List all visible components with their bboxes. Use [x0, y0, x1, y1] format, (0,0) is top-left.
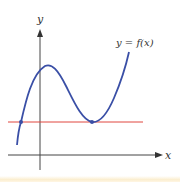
tangent-point — [90, 120, 94, 124]
intersection-point — [19, 120, 23, 124]
bottom-highlight-band — [0, 176, 180, 182]
y-axis-arrow-icon — [37, 29, 43, 37]
y-axis-label: y — [36, 13, 44, 26]
curve-label: y = f(x) — [115, 37, 154, 48]
x-axis-arrow-icon — [155, 152, 163, 158]
function-graph: x y y = f(x) — [0, 0, 180, 182]
x-axis-label: x — [165, 149, 172, 162]
function-curve — [17, 52, 129, 145]
